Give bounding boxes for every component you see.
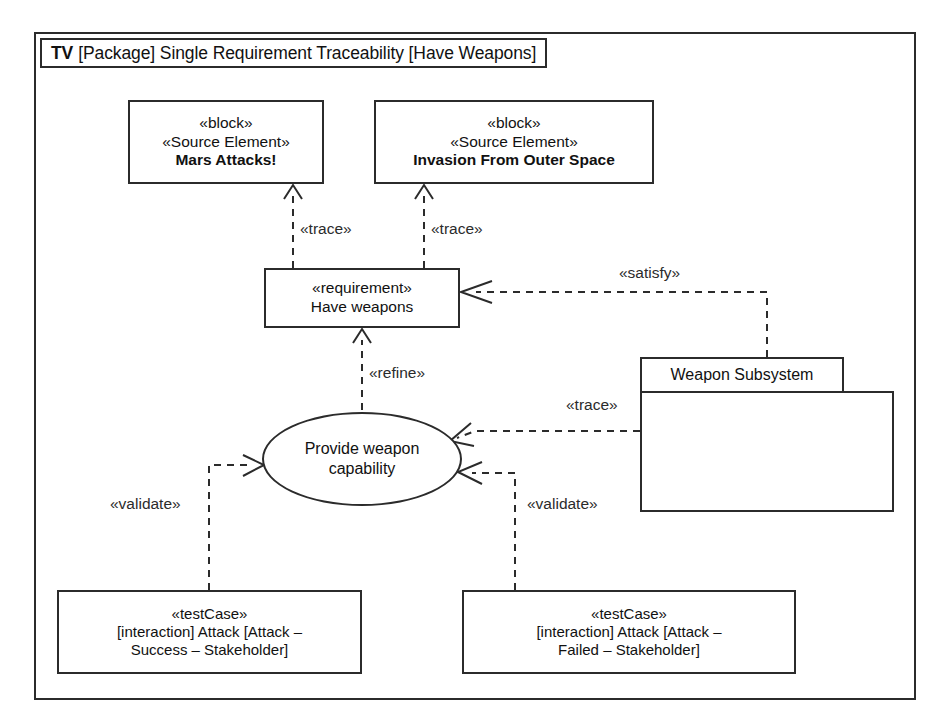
use-case-provide-weapon-capability[interactable]: Provide weapon capability [262,412,462,506]
package-frame-title-tab: TV [Package] Single Requirement Traceabi… [40,38,547,68]
block-mars-stereotype-source: «Source Element» [162,133,290,152]
requirement-name: Have weapons [311,298,414,317]
block-mars-stereotype-block: «block» [199,114,252,133]
package-weapon-subsystem-name: Weapon Subsystem [671,366,814,384]
test-case-success-line-2: Success – Stakeholder] [131,641,289,659]
block-invasion-stereotype-source: «Source Element» [450,133,578,152]
edge-label-trace-right: «trace» [431,220,483,238]
test-case-success-stereotype: «testCase» [172,605,248,623]
use-case-line-2: capability [329,459,396,479]
edge-label-satisfy: «satisfy» [619,264,680,282]
edge-label-validate-left: «validate» [110,495,181,513]
package-weapon-subsystem[interactable]: Weapon Subsystem [640,357,894,512]
edge-label-trace-subsystem: «trace» [566,396,618,414]
edge-label-trace-left: «trace» [300,220,352,238]
edge-label-refine: «refine» [369,364,425,382]
package-weapon-subsystem-tab: Weapon Subsystem [640,357,844,393]
test-case-success-line-1: [interaction] Attack [Attack – [117,623,302,641]
block-mars-name: Mars Attacks! [175,151,276,170]
test-case-failed-line-2: Failed – Stakeholder] [558,641,700,659]
block-invasion-name: Invasion From Outer Space [413,151,615,170]
test-case-attack-success[interactable]: «testCase» [interaction] Attack [Attack … [57,590,362,674]
block-invasion-stereotype-block: «block» [487,114,540,133]
test-case-failed-line-1: [interaction] Attack [Attack – [536,623,721,641]
test-case-attack-failed[interactable]: «testCase» [interaction] Attack [Attack … [462,590,796,674]
frame-tv-label: TV [51,43,73,64]
test-case-failed-stereotype: «testCase» [591,605,667,623]
edge-label-validate-right: «validate» [527,495,598,513]
requirement-have-weapons[interactable]: «requirement» Have weapons [264,268,460,328]
requirement-stereotype: «requirement» [312,279,412,298]
diagram-canvas: TV [Package] Single Requirement Traceabi… [0,0,940,726]
block-mars-attacks[interactable]: «block» «Source Element» Mars Attacks! [128,100,324,184]
frame-title-text: [Package] Single Requirement Traceabilit… [78,43,536,64]
use-case-line-1: Provide weapon [305,439,420,459]
package-weapon-subsystem-body [640,391,894,512]
block-invasion-from-outer-space[interactable]: «block» «Source Element» Invasion From O… [374,100,654,184]
